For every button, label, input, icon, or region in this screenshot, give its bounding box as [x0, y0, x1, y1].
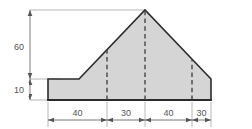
horizontal-dim-label-1: 40: [72, 108, 82, 118]
technical-drawing-figure: 60 10 40 30 40 30: [0, 0, 252, 129]
h-arrow-3-right: [186, 118, 192, 122]
drawing-canvas: 60 10 40 30 40 30: [0, 0, 252, 129]
section-shape: [48, 10, 211, 100]
arrow-60-bottom: [28, 73, 33, 79]
h-arrow-2-left: [107, 118, 113, 122]
h-arrow-2-right: [139, 118, 145, 122]
vertical-dim-label-10: 10: [14, 85, 24, 95]
section-shape-group: [47, 10, 212, 100]
h-arrow-1-left: [48, 118, 54, 122]
horizontal-dim-label-2: 30: [121, 108, 131, 118]
h-arrow-1-right: [101, 118, 107, 122]
arrow-60-top: [28, 10, 33, 16]
horizontal-dim-label-4: 30: [196, 108, 206, 118]
horizontal-dim-label-3: 40: [163, 108, 173, 118]
h-arrow-3-left: [145, 118, 151, 122]
h-arrow-4-right: [205, 118, 211, 122]
vertical-dim-label-60: 60: [14, 42, 24, 52]
h-arrow-4-left: [192, 118, 198, 122]
